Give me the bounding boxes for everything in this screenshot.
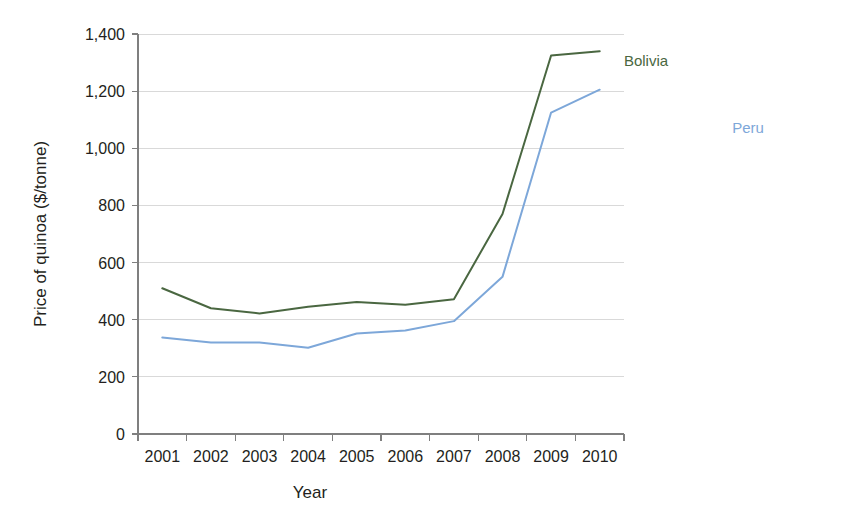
x-axis-tick-label: 2007	[436, 448, 472, 465]
y-axis-tick-label: 600	[98, 255, 125, 272]
y-axis-tick-label: 800	[98, 197, 125, 214]
y-axis-tick-label: 1,200	[85, 83, 125, 100]
y-axis-tick-label: 400	[98, 312, 125, 329]
x-axis-tick-label: 2001	[145, 448, 181, 465]
x-axis-tick-label: 2002	[193, 448, 229, 465]
x-axis-tick-label: 2005	[339, 448, 375, 465]
y-axis-tick-label: 1,400	[85, 26, 125, 43]
x-axis-tick-label: 2010	[582, 448, 618, 465]
y-axis-tick-label: 0	[116, 426, 125, 443]
y-axis-tick-label: 200	[98, 369, 125, 386]
series-label-peru: Peru	[732, 119, 764, 136]
x-axis-title: Year	[293, 483, 328, 502]
chart-background	[0, 0, 862, 519]
x-axis-tick-label: 2006	[388, 448, 424, 465]
quinoa-price-line-chart: 02004006008001,0001,2001,400 20012002200…	[0, 0, 862, 519]
x-axis-tick-label: 2009	[533, 448, 569, 465]
y-axis-title: Price of quinoa ($/tonne)	[31, 141, 50, 327]
x-axis-tick-label: 2008	[485, 448, 521, 465]
x-axis-tick-label: 2003	[242, 448, 278, 465]
chart-canvas: 02004006008001,0001,2001,400 20012002200…	[0, 0, 862, 519]
y-axis-tick-label: 1,000	[85, 140, 125, 157]
x-axis-tick-label: 2004	[290, 448, 326, 465]
series-label-bolivia: Bolivia	[624, 52, 669, 69]
